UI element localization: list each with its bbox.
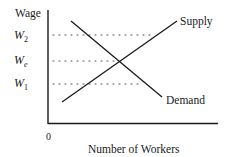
wage-guides	[53, 35, 150, 84]
supply-curve	[62, 21, 177, 102]
w1-label: W1	[14, 76, 28, 92]
supply-label: Supply	[180, 15, 213, 28]
demand-label: Demand	[166, 94, 205, 106]
w2-label: W2	[14, 28, 28, 44]
x-axis-label: Number of Workers	[88, 143, 180, 155]
origin-label: 0	[46, 131, 51, 142]
we-label: We	[14, 53, 28, 69]
labor-market-diagram: Wage W2 We W1 Supply Demand 0 Number of …	[0, 0, 228, 157]
y-axis-label: Wage	[15, 7, 41, 20]
axes	[48, 10, 218, 124]
